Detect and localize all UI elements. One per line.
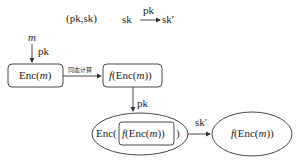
diagram-canvas xyxy=(0,0,300,165)
enc-m-text: Enc(m) xyxy=(19,70,51,81)
f-enc-m-text: ff(Enc((Enc(m)) xyxy=(109,70,152,81)
message-label: m xyxy=(28,32,36,43)
key-pair-label: (pk,sk) xyxy=(66,13,97,24)
sk-label: sk xyxy=(122,14,132,25)
reencrypt-pk-label: pk xyxy=(137,98,148,109)
result-text: f(Enc(m)) xyxy=(231,128,274,139)
input-pk-label: pk xyxy=(38,46,49,57)
reenc-outer-prefix: Enc( xyxy=(96,128,117,139)
decrypt-key-label: sk′ xyxy=(195,117,207,128)
pk-transform-label: pk xyxy=(143,5,154,16)
reenc-outer-suffix: ) xyxy=(176,128,180,139)
reenc-inner-text: f(Enc(m)) xyxy=(122,128,165,139)
homomorphic-label: 同态计算 xyxy=(68,67,92,73)
sk-prime-label: sk′ xyxy=(162,14,174,25)
